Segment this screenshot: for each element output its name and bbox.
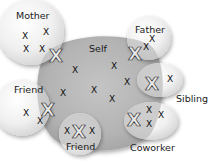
friend-left-mark: X <box>23 108 29 118</box>
mother-shared-mark: X <box>49 45 63 66</box>
self-mark: X <box>60 88 66 98</box>
mother-mark: X <box>22 31 28 41</box>
friend-left-label: Friend <box>14 84 43 95</box>
friend-bottom-mark: X <box>89 126 95 136</box>
mother-mark: X <box>23 44 29 54</box>
sibling-label: Sibling <box>176 93 208 104</box>
self-mark: X <box>72 65 78 75</box>
self-mark: X <box>91 85 97 95</box>
self-label: Self <box>89 43 108 54</box>
diagram-canvas: Self Mother Father Sibling Coworker Frie <box>0 0 217 166</box>
coworker-shared-mark: X <box>127 109 141 130</box>
self-mark: X <box>124 77 130 87</box>
coworker-mark: X <box>146 105 152 115</box>
sibling-shared-mark: X <box>145 73 159 94</box>
friend-left-shared-mark: X <box>41 99 55 120</box>
father-mark: X <box>143 42 149 52</box>
father-shared-mark: X <box>128 43 142 64</box>
friend-bottom-shared-mark: X <box>72 121 86 142</box>
mother-label: Mother <box>16 10 50 21</box>
father-mark: X <box>149 34 155 44</box>
friend-bottom-label: Friend <box>66 141 95 152</box>
self-mark: X <box>111 61 117 71</box>
relationship-diagram: Self Mother Father Sibling Coworker Frie <box>0 0 217 166</box>
self-mark: X <box>109 94 115 104</box>
friend-bottom-mark: X <box>64 126 70 136</box>
coworker-mark: X <box>146 119 152 129</box>
coworker-label: Coworker <box>130 142 175 153</box>
mother-mark: X <box>43 27 49 37</box>
mother-mark: X <box>39 44 45 54</box>
coworker-mark: X <box>158 110 164 120</box>
sibling-mark: X <box>167 74 173 84</box>
